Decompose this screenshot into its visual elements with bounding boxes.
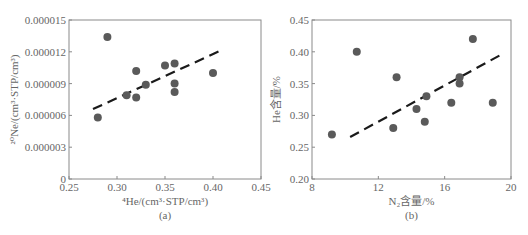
data-point bbox=[171, 80, 179, 88]
x-tick-label: 0.30 bbox=[107, 181, 127, 193]
y-tick-label: 0.000015 bbox=[25, 14, 67, 26]
data-point bbox=[328, 130, 336, 138]
chart-panel-b: 81216200.200.250.300.350.400.45N₂含量/%(b)… bbox=[269, 14, 517, 222]
data-point bbox=[161, 62, 169, 70]
figure: 0.250.300.350.400.4500.0000030.0000060.0… bbox=[0, 0, 528, 235]
data-point bbox=[389, 124, 397, 132]
y-tick-label: 0.40 bbox=[290, 46, 310, 58]
panel-label: (b) bbox=[405, 209, 418, 222]
y-axis-title: He含量/% bbox=[269, 76, 282, 123]
data-point bbox=[171, 59, 179, 67]
x-axis-title: ⁴He/(cm³·STP/cm³) bbox=[122, 195, 209, 208]
y-tick-label: 0 bbox=[61, 173, 67, 185]
data-point bbox=[412, 105, 420, 113]
x-tick-label: 20 bbox=[506, 181, 518, 193]
y-tick-label: 0.30 bbox=[290, 109, 310, 121]
data-point bbox=[447, 99, 455, 107]
y-axis-title: ²⁰Ne/(cm³·STP/cm³) bbox=[8, 54, 21, 144]
data-point bbox=[132, 67, 140, 75]
x-tick-label: 0.45 bbox=[251, 181, 271, 193]
x-axis-title: N₂含量/% bbox=[389, 194, 435, 207]
y-tick-label: 0.000009 bbox=[25, 78, 67, 90]
data-point bbox=[123, 91, 131, 99]
y-tick-label: 0.20 bbox=[290, 173, 310, 185]
y-tick-label: 0.35 bbox=[290, 78, 310, 90]
data-point bbox=[353, 48, 361, 56]
data-point bbox=[393, 73, 401, 81]
data-point bbox=[132, 93, 140, 101]
x-tick-label: 8 bbox=[309, 181, 315, 193]
x-tick-label: 0.35 bbox=[155, 181, 175, 193]
data-point bbox=[142, 81, 150, 89]
data-point bbox=[456, 80, 464, 88]
plot-frame bbox=[312, 20, 511, 179]
data-point bbox=[171, 88, 179, 96]
data-point bbox=[209, 69, 217, 77]
plot-frame bbox=[69, 20, 261, 179]
y-tick-label: 0.000003 bbox=[25, 141, 67, 153]
y-tick-label: 0.000012 bbox=[25, 46, 66, 58]
data-point bbox=[421, 118, 429, 126]
x-tick-label: 0.40 bbox=[203, 181, 223, 193]
trend-line bbox=[93, 50, 223, 109]
data-point bbox=[103, 33, 111, 41]
data-point bbox=[94, 114, 102, 122]
chart-panel-a: 0.250.300.350.400.4500.0000030.0000060.0… bbox=[8, 14, 271, 222]
data-point bbox=[422, 92, 430, 100]
y-tick-label: 0.45 bbox=[290, 14, 310, 26]
data-point bbox=[469, 35, 477, 43]
x-tick-label: 16 bbox=[439, 181, 451, 193]
data-point bbox=[489, 99, 497, 107]
y-tick-label: 0.000006 bbox=[25, 109, 67, 121]
x-tick-label: 12 bbox=[373, 181, 384, 193]
panel-label: (a) bbox=[159, 209, 172, 222]
y-tick-label: 0.25 bbox=[290, 141, 310, 153]
